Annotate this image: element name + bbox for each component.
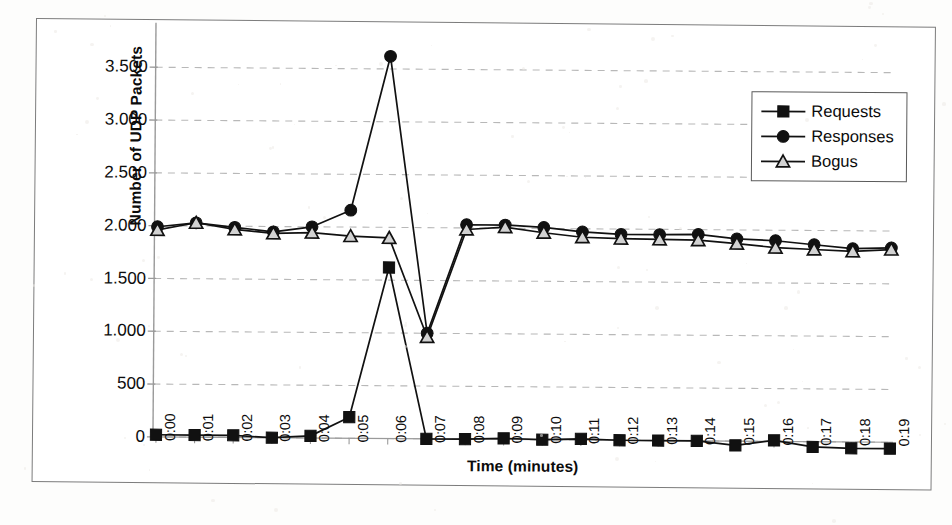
scan-speckle (646, 269, 648, 271)
scan-speckle (76, 134, 78, 136)
scan-speckle (148, 325, 150, 327)
scan-speckle (874, 44, 877, 47)
legend-swatch-requests (760, 101, 806, 121)
y-tick-label: 3.000 (43, 109, 147, 130)
scan-speckle (54, 30, 56, 32)
x-tick-label: 0:07 (432, 415, 448, 443)
marker-square (383, 262, 394, 273)
scan-speckle (784, 306, 788, 310)
x-tick-label: 0:01 (200, 414, 216, 442)
x-tick-label: 0:19 (895, 419, 911, 447)
scanned-page: Number of UDP Packets 05001.0001.5002.00… (0, 0, 952, 525)
y-tick-label: 1.500 (42, 268, 146, 289)
scan-speckle (617, 327, 619, 329)
scan-speckle (116, 338, 120, 342)
scan-speckle (651, 37, 655, 41)
y-tick-label: 3.500 (44, 56, 148, 77)
scan-speckle (679, 227, 682, 230)
scan-speckle (832, 519, 836, 523)
scan-speckle (33, 284, 35, 286)
legend-item: Bogus (760, 148, 894, 174)
legend-label: Responses (811, 127, 894, 147)
scan-speckle (399, 482, 402, 485)
scan-speckle (85, 120, 89, 124)
marker-square (344, 412, 355, 423)
y-tick-label: 0 (41, 426, 145, 447)
scan-speckle (944, 423, 947, 426)
scan-speckle (942, 102, 946, 106)
x-tick-label: 0:15 (741, 418, 757, 446)
x-tick-label: 0:16 (780, 418, 796, 446)
x-tick-label: 0:08 (470, 416, 486, 444)
scan-speckle (180, 353, 183, 356)
scan-speckle (868, 6, 871, 9)
scan-speckle (434, 509, 437, 512)
scan-speckle (805, 118, 809, 122)
x-tick-label: 0:00 (161, 413, 177, 441)
scan-speckle (564, 341, 566, 343)
x-tick-label: 0:06 (393, 415, 409, 443)
scan-speckle (540, 434, 543, 437)
chart-legend: RequestsResponsesBogus (751, 91, 907, 182)
scan-speckle (644, 79, 648, 83)
scan-speckle (64, 272, 67, 275)
legend-item: Requests (760, 98, 894, 124)
marker-circle (385, 50, 397, 62)
marker-square (778, 105, 789, 116)
x-tick-label: 0:12 (625, 417, 641, 445)
scan-speckle (90, 43, 93, 46)
gridline (153, 384, 893, 389)
scan-speckle (616, 107, 619, 110)
scan-speckle (299, 366, 301, 368)
scan-speckle (308, 206, 311, 209)
scan-speckle (272, 146, 274, 148)
scan-speckle (527, 180, 530, 183)
x-tick-label: 0:17 (818, 418, 834, 446)
y-axis-ticks: 05001.0001.5002.0002.5003.0003.500 (37, 40, 148, 437)
line-chart: Number of UDP Packets 05001.0001.5002.00… (37, 22, 930, 484)
scan-speckle (511, 135, 513, 137)
scan-speckle (143, 444, 145, 446)
x-tick-label: 0:14 (702, 417, 718, 445)
x-tick-label: 0:11 (586, 418, 602, 444)
x-tick-label: 0:10 (548, 416, 564, 444)
y-tick-label: 2.500 (43, 162, 147, 183)
marker-circle (345, 204, 357, 216)
scan-speckle (24, 467, 27, 470)
scan-speckle (404, 324, 407, 327)
x-tick-label: 0:04 (316, 415, 332, 443)
scan-speckle (274, 508, 278, 512)
x-tick-label: 0:09 (509, 416, 525, 444)
marker-circle (777, 130, 789, 142)
scan-speckle (566, 176, 568, 178)
scan-speckle (96, 97, 99, 100)
legend-swatch-responses (760, 126, 806, 146)
y-tick-label: 1.000 (42, 320, 146, 341)
legend-label: Bogus (811, 152, 858, 171)
gridline (154, 331, 894, 336)
x-tick-label: 0:05 (355, 415, 371, 443)
scan-speckle (764, 404, 767, 407)
x-tick-label: 0:18 (857, 419, 873, 447)
x-tick-label: 0:02 (239, 414, 255, 442)
legend-item: Responses (760, 123, 894, 149)
gridline (154, 278, 894, 283)
scan-speckle (882, 13, 884, 15)
scan-speckle (479, 69, 480, 70)
y-tick-label: 500 (41, 373, 145, 394)
gridline (156, 67, 896, 72)
scan-speckle (619, 85, 621, 87)
scan-speckle (655, 306, 659, 310)
scan-speckle (869, 2, 873, 6)
scan-speckle (717, 361, 720, 364)
scan-speckle (807, 427, 809, 429)
y-tick-label: 2.000 (42, 215, 146, 236)
x-tick-label: 0:13 (664, 417, 680, 445)
scan-speckle (191, 92, 194, 95)
scan-speckle (617, 266, 620, 269)
legend-label: Requests (811, 102, 881, 122)
scan-speckle (905, 357, 907, 359)
scan-speckle (104, 15, 106, 17)
x-tick-label: 0:03 (277, 414, 293, 442)
legend-swatch-bogus (760, 151, 806, 171)
